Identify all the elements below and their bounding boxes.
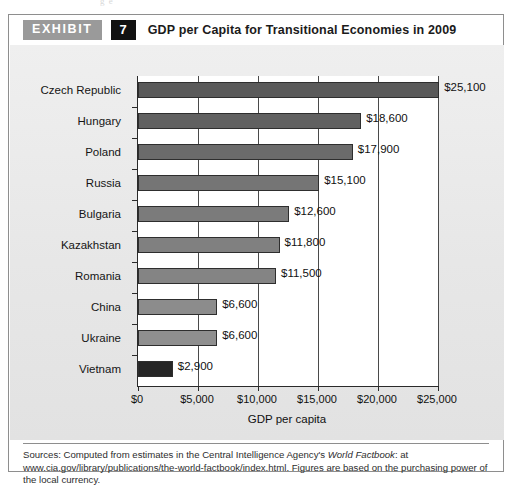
category-label: Ukraine <box>81 332 121 344</box>
bar[interactable] <box>138 361 173 377</box>
bar[interactable] <box>138 299 217 315</box>
y-axis-tick <box>132 231 138 232</box>
y-axis-tick <box>132 169 138 170</box>
exhibit-label: EXHIBIT <box>23 20 102 40</box>
x-axis-tick-label: $15,000 <box>297 393 337 405</box>
exhibit-frame: EXHIBIT 7 GDP per Capita for Transitiona… <box>8 14 504 472</box>
bar-value-label: $17,900 <box>358 143 400 155</box>
x-axis-tick-label: $0 <box>131 393 143 405</box>
category-label: Russia <box>86 177 121 189</box>
chart-row: $6,600 <box>138 293 438 324</box>
category-label: Bulgaria <box>79 208 121 220</box>
plot-area: $25,100$18,600$17,900$15,100$12,600$11,8… <box>137 76 438 387</box>
chart-panel: Czech RepublicHungaryPolandRussiaBulgari… <box>10 45 504 440</box>
source-note: Sources: Computed from estimates in the … <box>23 449 493 485</box>
category-label: Hungary <box>78 115 121 127</box>
chart-row: $12,600 <box>138 200 438 231</box>
x-axis-title: GDP per capita <box>137 413 437 425</box>
bar-value-label: $18,600 <box>366 112 408 124</box>
category-label: Vietnam <box>79 363 121 375</box>
note-divider <box>23 443 489 444</box>
chart-row: $15,100 <box>138 169 438 200</box>
category-axis-labels: Czech RepublicHungaryPolandRussiaBulgari… <box>10 76 129 386</box>
exhibit-header: EXHIBIT 7 GDP per Capita for Transitiona… <box>9 15 503 45</box>
bar-value-label: $25,100 <box>444 81 486 93</box>
bar[interactable] <box>138 82 439 98</box>
y-axis-tick <box>132 107 138 108</box>
bar-value-label: $15,100 <box>324 174 366 186</box>
chart-row: $18,600 <box>138 107 438 138</box>
x-axis-tick-label: $10,000 <box>237 393 277 405</box>
chart-row: $2,900 <box>138 355 438 386</box>
bar-value-label: $6,600 <box>222 298 257 310</box>
bar[interactable] <box>138 175 319 191</box>
y-axis-tick <box>132 293 138 294</box>
bar[interactable] <box>138 330 217 346</box>
bar-value-label: $12,600 <box>294 205 336 217</box>
category-label: Poland <box>85 146 121 158</box>
x-axis-tick <box>318 386 319 391</box>
exhibit-title: GDP per Capita for Transitional Economie… <box>148 23 457 37</box>
exhibit-number-badge: 7 <box>111 20 136 40</box>
exhibit-page: g e EXHIBIT 7 GDP per Capita for Transit… <box>0 0 512 485</box>
bar[interactable] <box>138 206 289 222</box>
y-axis-tick <box>132 355 138 356</box>
source-note-italic: World Factbook <box>328 449 395 460</box>
chart-row: $6,600 <box>138 324 438 355</box>
y-axis-tick <box>132 200 138 201</box>
x-axis-tick <box>198 386 199 391</box>
x-axis-tick <box>138 386 139 391</box>
chart-row: $17,900 <box>138 138 438 169</box>
x-axis-tick-label: $25,000 <box>417 393 457 405</box>
bar[interactable] <box>138 113 361 129</box>
y-axis-tick <box>132 138 138 139</box>
chart-row: $11,500 <box>138 262 438 293</box>
bar[interactable] <box>138 268 276 284</box>
bar-value-label: $2,900 <box>178 360 213 372</box>
bar[interactable] <box>138 237 280 253</box>
page-bleed-text: g e <box>100 0 360 6</box>
source-note-prefix: Sources: Computed from estimates in the … <box>23 449 328 460</box>
x-axis-tick-label: $20,000 <box>357 393 397 405</box>
chart-row: $25,100 <box>138 76 438 107</box>
bar[interactable] <box>138 144 353 160</box>
bar-value-label: $11,500 <box>281 267 322 279</box>
y-axis-tick <box>132 262 138 263</box>
x-axis-tick-label: $5,000 <box>180 393 214 405</box>
category-label: Czech Republic <box>40 84 121 96</box>
bar-value-label: $6,600 <box>222 329 257 341</box>
bar-value-label: $11,800 <box>285 236 326 248</box>
category-label: Kazakhstan <box>61 239 121 251</box>
y-axis-tick <box>132 324 138 325</box>
x-axis-tick <box>378 386 379 391</box>
gridline <box>438 76 439 386</box>
category-label: China <box>91 301 121 313</box>
category-label: Romania <box>75 270 121 282</box>
x-axis-tick <box>258 386 259 391</box>
chart-row: $11,800 <box>138 231 438 262</box>
x-axis-tick <box>438 386 439 391</box>
